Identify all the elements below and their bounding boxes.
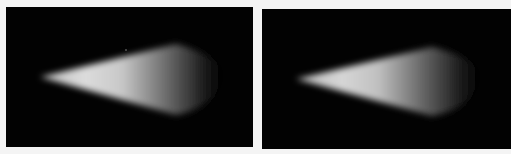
beam-image-right — [262, 9, 511, 149]
light-cone-left — [6, 7, 253, 147]
light-cone-right — [262, 9, 511, 149]
beam-image-left — [6, 7, 253, 147]
